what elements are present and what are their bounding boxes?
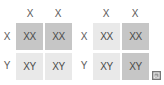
- right-row-header-1: X: [78, 32, 90, 42]
- left-cell-xy-1: XY: [16, 53, 43, 80]
- left-row-header-1: X: [1, 32, 13, 42]
- left-row-header-2: Y: [1, 61, 13, 71]
- corner-badge-icon: [152, 71, 161, 80]
- left-col-header-1: X: [24, 9, 36, 19]
- left-cell-xx-2: XX: [45, 23, 72, 50]
- right-cell-xx-2: XX: [122, 23, 149, 50]
- image-icon: [153, 72, 160, 79]
- right-cell-xx-1: XX: [93, 23, 120, 50]
- right-cell-xy-1: XY: [93, 53, 120, 80]
- right-cell-xy-2: XY: [122, 53, 149, 80]
- right-row-header-2: Y: [78, 61, 90, 71]
- left-cell-xx-1: XX: [16, 23, 43, 50]
- right-col-header-1: X: [100, 9, 112, 19]
- left-col-header-2: X: [52, 9, 64, 19]
- right-col-header-2: X: [129, 9, 141, 19]
- left-cell-xy-2: XY: [45, 53, 72, 80]
